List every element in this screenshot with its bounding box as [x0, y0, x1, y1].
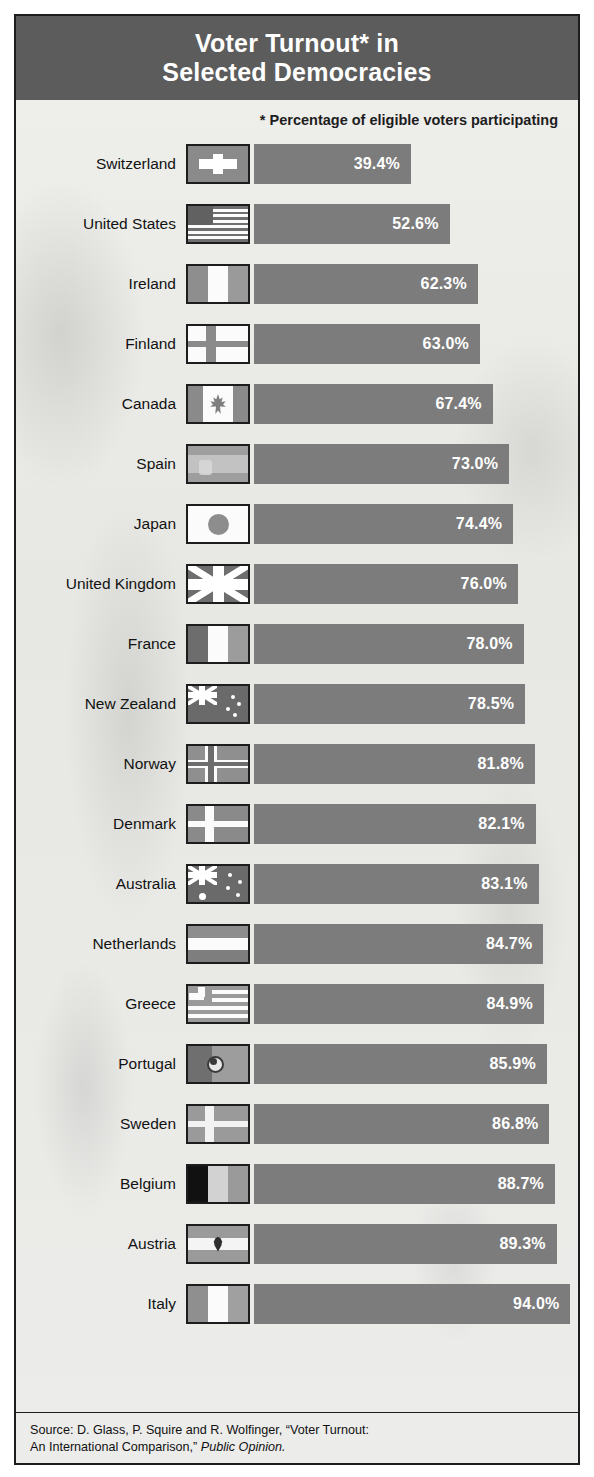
- flag-cell: [182, 564, 254, 604]
- flag-icon-united-states: [186, 204, 250, 244]
- bar-value-label: 74.4%: [456, 515, 502, 533]
- flag-icon-portugal: [186, 1044, 250, 1084]
- flag-icon-greece: [186, 984, 250, 1024]
- flag-cell: [182, 384, 254, 424]
- turnout-bar: 74.4%: [254, 504, 513, 544]
- flag-icon-ireland: [186, 264, 250, 304]
- turnout-bar: 89.3%: [254, 1224, 557, 1264]
- bar-cell: 86.8%: [254, 1094, 578, 1154]
- flag-cell: [182, 1284, 254, 1324]
- source-line-1: Source: D. Glass, P. Squire and R. Wolfi…: [30, 1422, 566, 1439]
- bar-value-label: 67.4%: [435, 395, 481, 413]
- flag-cell: [182, 1044, 254, 1084]
- bar-value-label: 94.0%: [513, 1295, 559, 1313]
- bar-row: Greece84.9%: [16, 974, 578, 1034]
- bar-cell: 82.1%: [254, 794, 578, 854]
- flag-icon-france: [186, 624, 250, 664]
- bar-value-label: 86.8%: [492, 1115, 538, 1133]
- flag-cell: [182, 264, 254, 304]
- bar-cell: 63.0%: [254, 314, 578, 374]
- bar-value-label: 83.1%: [481, 875, 527, 893]
- bar-cell: 81.8%: [254, 734, 578, 794]
- flag-cell: [182, 864, 254, 904]
- bar-cell: 78.0%: [254, 614, 578, 674]
- country-label: Portugal: [16, 1055, 182, 1073]
- flag-icon-switzerland: [186, 144, 250, 184]
- bar-value-label: 82.1%: [478, 815, 524, 833]
- turnout-bar: 82.1%: [254, 804, 536, 844]
- bar-value-label: 52.6%: [392, 215, 438, 233]
- chart-subtitle-footnote: * Percentage of eligible voters particip…: [16, 100, 578, 128]
- bar-row: Denmark82.1%: [16, 794, 578, 854]
- bar-value-label: 76.0%: [461, 575, 507, 593]
- country-label: United Kingdom: [16, 575, 182, 593]
- bar-value-label: 63.0%: [423, 335, 469, 353]
- bar-cell: 85.9%: [254, 1034, 578, 1094]
- flag-cell: [182, 984, 254, 1024]
- bar-row: Spain73.0%: [16, 434, 578, 494]
- country-label: United States: [16, 215, 182, 233]
- turnout-bar: 85.9%: [254, 1044, 547, 1084]
- turnout-bar: 81.8%: [254, 744, 535, 784]
- bar-cell: 89.3%: [254, 1214, 578, 1274]
- bar-row: United States52.6%: [16, 194, 578, 254]
- turnout-bar: 88.7%: [254, 1164, 555, 1204]
- bar-row: France78.0%: [16, 614, 578, 674]
- flag-cell: [182, 1224, 254, 1264]
- country-label: Belgium: [16, 1175, 182, 1193]
- bar-row: Japan74.4%: [16, 494, 578, 554]
- chart-plate: Voter Turnout* in Selected Democracies *…: [14, 14, 580, 1465]
- bar-row: New Zealand78.5%: [16, 674, 578, 734]
- country-label: Australia: [16, 875, 182, 893]
- bar-cell: 84.9%: [254, 974, 578, 1034]
- bar-row: Canada67.4%: [16, 374, 578, 434]
- flag-icon-new-zealand: [186, 684, 250, 724]
- bar-value-label: 84.7%: [486, 935, 532, 953]
- turnout-bar: 62.3%: [254, 264, 478, 304]
- bar-cell: 52.6%: [254, 194, 578, 254]
- bar-value-label: 84.9%: [487, 995, 533, 1013]
- country-label: Finland: [16, 335, 182, 353]
- flag-cell: [182, 444, 254, 484]
- country-label: Ireland: [16, 275, 182, 293]
- bar-row: Portugal85.9%: [16, 1034, 578, 1094]
- bar-cell: 39.4%: [254, 134, 578, 194]
- bar-row: Ireland62.3%: [16, 254, 578, 314]
- bar-row: Sweden86.8%: [16, 1094, 578, 1154]
- source-line-2: An International Comparison,” Public Opi…: [30, 1439, 566, 1456]
- turnout-bar: 78.5%: [254, 684, 525, 724]
- country-label: Netherlands: [16, 935, 182, 953]
- turnout-bar: 86.8%: [254, 1104, 549, 1144]
- country-label: Greece: [16, 995, 182, 1013]
- voter-turnout-chart-figure: Voter Turnout* in Selected Democracies *…: [0, 0, 594, 1477]
- flag-icon-netherlands: [186, 924, 250, 964]
- bar-value-label: 85.9%: [489, 1055, 535, 1073]
- turnout-bar: 78.0%: [254, 624, 524, 664]
- bar-cell: 94.0%: [254, 1274, 578, 1334]
- bar-cell: 67.4%: [254, 374, 578, 434]
- flag-cell: [182, 144, 254, 184]
- country-label: Spain: [16, 455, 182, 473]
- flag-cell: [182, 204, 254, 244]
- country-label: New Zealand: [16, 695, 182, 713]
- flag-cell: [182, 924, 254, 964]
- turnout-bar: 84.7%: [254, 924, 543, 964]
- flag-icon-norway: [186, 744, 250, 784]
- flag-cell: [182, 1164, 254, 1204]
- flag-icon-spain: [186, 444, 250, 484]
- country-label: Canada: [16, 395, 182, 413]
- turnout-bar: 67.4%: [254, 384, 493, 424]
- flag-icon-united-kingdom: [186, 564, 250, 604]
- turnout-bar: 73.0%: [254, 444, 509, 484]
- turnout-bar: 63.0%: [254, 324, 480, 364]
- country-label: Japan: [16, 515, 182, 533]
- country-label: Sweden: [16, 1115, 182, 1133]
- source-publication-name: Public Opinion.: [201, 1440, 286, 1454]
- flag-icon-austria: [186, 1224, 250, 1264]
- bar-row: Belgium88.7%: [16, 1154, 578, 1214]
- country-label: Norway: [16, 755, 182, 773]
- bar-value-label: 78.5%: [468, 695, 514, 713]
- chart-header-band: Voter Turnout* in Selected Democracies: [16, 16, 578, 100]
- bar-cell: 73.0%: [254, 434, 578, 494]
- turnout-bar: 83.1%: [254, 864, 539, 904]
